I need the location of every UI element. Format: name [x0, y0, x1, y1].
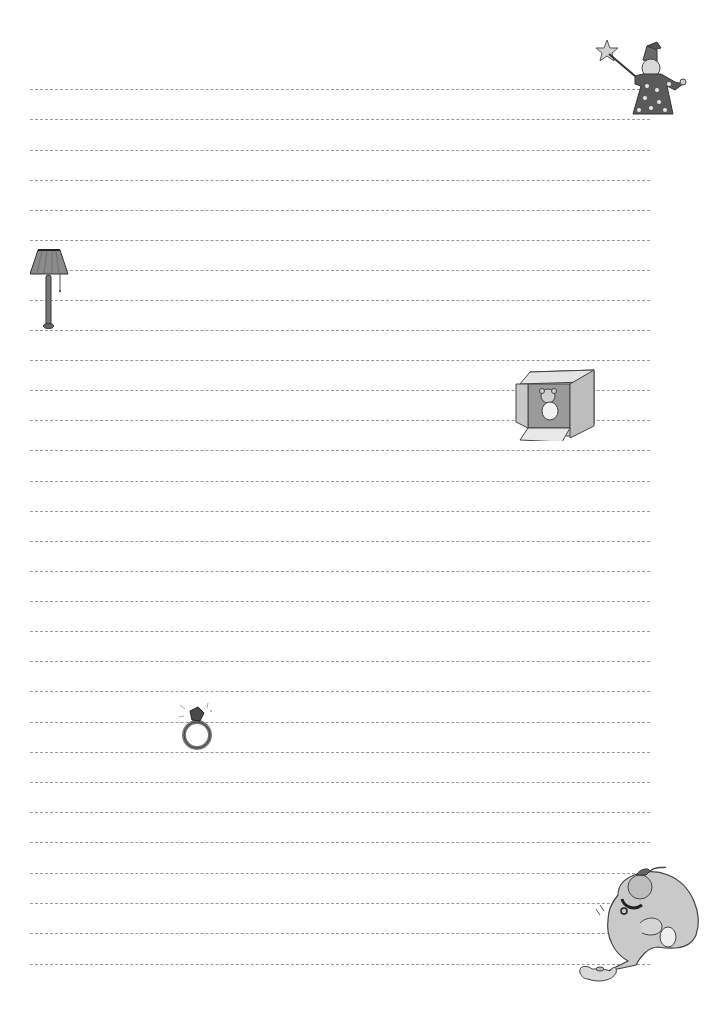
ruled-line [30, 842, 650, 843]
ruled-line [30, 631, 650, 632]
ruled-line [30, 210, 650, 211]
ruled-line [30, 180, 650, 181]
ruled-line [30, 691, 650, 692]
ruled-line [30, 752, 650, 753]
ruled-line [30, 782, 650, 783]
ruled-line [30, 541, 650, 542]
wizard-icon [595, 38, 700, 118]
ring-icon [176, 697, 214, 752]
ruled-line [30, 964, 650, 965]
ruled-line [30, 89, 650, 90]
ruled-line [30, 601, 650, 602]
genie-icon [578, 865, 710, 987]
ruled-line [30, 933, 650, 934]
box-illustration [502, 366, 598, 441]
genie-illustration [578, 865, 710, 987]
ruled-line [30, 873, 650, 874]
ruled-line [30, 240, 650, 241]
lamp-icon [30, 248, 70, 330]
ruled-line [30, 511, 650, 512]
ruled-line [30, 450, 650, 451]
ruled-line [30, 119, 650, 120]
ruled-line [30, 300, 650, 301]
ruled-line [30, 150, 650, 151]
ruled-line [30, 330, 650, 331]
ruled-line [30, 661, 650, 662]
lamp-illustration [30, 248, 70, 330]
ring-illustration [176, 697, 214, 752]
ruled-line [30, 360, 650, 361]
ruled-line [30, 722, 650, 723]
ruled-line [30, 270, 650, 271]
wizard-illustration [595, 38, 700, 118]
ruled-line [30, 481, 650, 482]
ruled-line [30, 903, 650, 904]
ruled-line [30, 812, 650, 813]
ruled-line [30, 571, 650, 572]
box-icon [502, 366, 598, 441]
